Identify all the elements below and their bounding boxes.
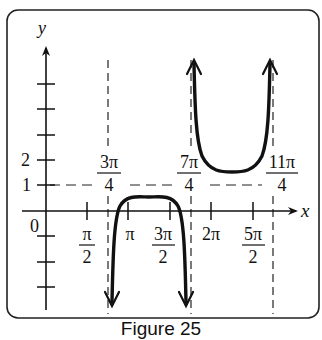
svg-text:5π: 5π [244,224,262,244]
x-tick-label-pi: π [125,224,134,244]
arrow-down-icon [105,292,193,306]
svg-text:11π: 11π [269,152,295,172]
figure-caption: Figure 25 [0,318,322,340]
x-tick-label-3pi-2: 3π 2 [152,224,175,267]
svg-text:π: π [82,224,91,244]
x-tick-label-pi-2: π 2 [79,224,95,267]
svg-text:3π: 3π [100,152,118,172]
svg-text:4: 4 [105,175,114,195]
x-axis-label: x [300,200,310,221]
svg-text:2: 2 [83,247,92,267]
curve-lower-branch [112,197,186,302]
svg-text:3π: 3π [154,224,172,244]
svg-text:4: 4 [278,175,287,195]
arrow-up-icon [187,60,277,74]
y-axis-label: y [36,18,46,38]
svg-text:2: 2 [159,247,168,267]
y-tick-label-2: 2 [21,150,30,170]
asymptote-label-3pi-4: 3π 4 [94,150,124,196]
svg-text:7π: 7π [180,152,198,172]
y-tick-label-1: 1 [22,175,31,195]
x-tick-label-2pi: 2π [202,224,220,244]
origin-label: 0 [30,216,39,236]
svg-text:2: 2 [249,247,258,267]
svg-text:4: 4 [185,175,194,195]
x-tick-label-5pi-2: 5π 2 [242,224,265,267]
asymptote-label-11pi-4: 11π 4 [262,150,302,196]
